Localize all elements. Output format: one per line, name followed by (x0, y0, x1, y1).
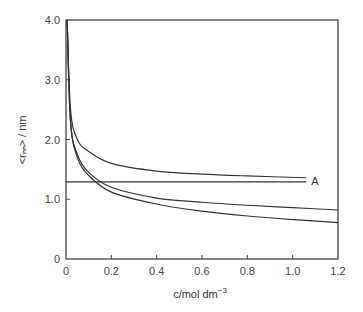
data-series (66, 20, 338, 223)
x-tick-label: 0 (63, 265, 69, 277)
chart: 00.20.40.60.81.01.2 01.02.03.04.0 A c/mo… (0, 0, 363, 312)
x-tick-label: 0.4 (149, 265, 164, 277)
x-tick-label: 0.6 (194, 265, 209, 277)
x-tick-label: 1.0 (285, 265, 300, 277)
annotation-a: A (311, 175, 319, 187)
x-tick-label: 1.2 (330, 265, 345, 277)
plot-border (66, 20, 338, 259)
y-tick-label: 1.0 (45, 193, 60, 205)
series-line-lower-curve (67, 20, 338, 223)
x-axis-label: c/mol dm−3 (173, 286, 227, 300)
x-axis-label-text: c/mol dm (173, 288, 218, 300)
x-axis-label-superscript: −3 (218, 286, 228, 295)
x-tick-label: 0.8 (240, 265, 255, 277)
plot-frame (66, 20, 338, 259)
x-tick-label: 0.2 (104, 265, 119, 277)
y-tick-label: 0 (54, 253, 60, 265)
y-tick-label: 2.0 (45, 134, 60, 146)
y-tick-label: 4.0 (45, 14, 60, 26)
x-axis-ticks: 00.20.40.60.81.01.2 (63, 255, 346, 277)
series-line-upper-curve (67, 20, 306, 178)
y-axis-label: <rₙₙ> / nm (16, 116, 28, 165)
y-tick-label: 3.0 (45, 74, 60, 86)
